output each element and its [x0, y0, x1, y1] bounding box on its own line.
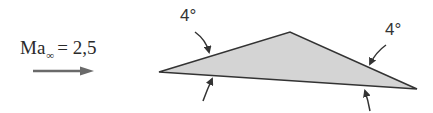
front-upper-angle-arrow-icon — [195, 32, 209, 52]
wedge-airfoil — [159, 32, 417, 89]
rear-lower-angle-arrow-icon — [365, 91, 370, 111]
flow-arrow-icon — [33, 67, 94, 76]
front-lower-angle-arrow-icon — [203, 79, 212, 101]
diagram-canvas — [0, 0, 433, 113]
rear-upper-angle-arrow-icon — [370, 45, 386, 64]
